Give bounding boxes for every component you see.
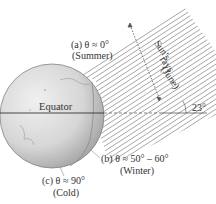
angle-arc (183, 101, 186, 113)
equator-label: Equator (39, 101, 72, 112)
earth-globe (0, 64, 104, 168)
wavefront-line (128, 23, 161, 101)
angle-label: 23° (192, 102, 206, 113)
label-a-theta: (a) θ ≈ 0° (71, 39, 109, 50)
label-c-season: (Cold) (53, 187, 79, 198)
label-b-theta: (b) θ ≈ 50° – 60° (101, 153, 168, 164)
label-c-theta: (c) θ ≈ 90° (42, 175, 85, 186)
sun-rays-earth-diagram (0, 0, 216, 204)
label-b-season: (Winter) (120, 165, 154, 176)
label-a-season: (Summer) (72, 50, 113, 61)
